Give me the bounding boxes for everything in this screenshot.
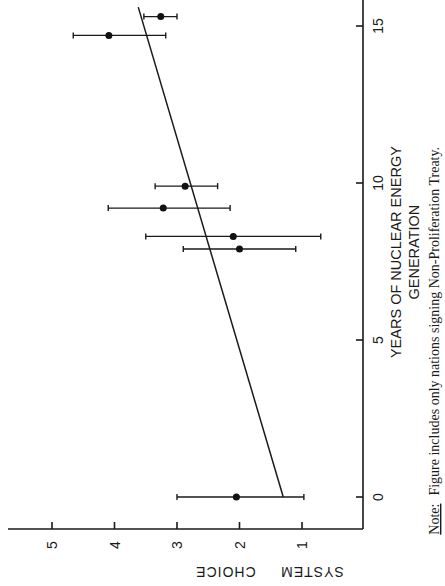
rotated-figure-page: 12345051015 SYSTEM CHOICEYEARS OF NUCLEA… bbox=[0, 0, 445, 586]
regression-line bbox=[138, 7, 283, 497]
data-point bbox=[108, 205, 230, 212]
data-point bbox=[177, 494, 304, 501]
y-tick-label: 5 bbox=[44, 541, 60, 549]
y-tick-label: 4 bbox=[107, 541, 123, 549]
x-tick-label: 5 bbox=[370, 336, 386, 344]
data-point bbox=[183, 245, 296, 252]
trend-line bbox=[138, 7, 283, 497]
note-text: Figure includes only nations signing Non… bbox=[427, 147, 442, 496]
figure-note: Note:Figure includes only nations signin… bbox=[427, 147, 442, 535]
axis-labels: SYSTEM CHOICEYEARS OF NUCLEAR ENERGYGENE… bbox=[195, 146, 442, 580]
point-marker bbox=[182, 183, 189, 190]
point-marker bbox=[157, 13, 164, 20]
note-label: Note: bbox=[427, 504, 442, 535]
data-point bbox=[155, 183, 218, 190]
chart-axes: 12345051015 bbox=[8, 0, 386, 549]
point-marker bbox=[230, 233, 237, 240]
point-marker bbox=[236, 245, 243, 252]
point-marker bbox=[160, 205, 167, 212]
x-axis-label-line1: YEARS OF NUCLEAR ENERGY bbox=[388, 146, 404, 358]
data-point bbox=[73, 32, 166, 39]
y-axis-label: SYSTEM CHOICE bbox=[195, 564, 343, 580]
y-tick-label: 1 bbox=[294, 541, 310, 549]
x-tick-label: 0 bbox=[370, 493, 386, 501]
chart-figure: 12345051015 SYSTEM CHOICEYEARS OF NUCLEA… bbox=[0, 0, 445, 586]
x-tick-label: 10 bbox=[370, 175, 386, 191]
y-tick-label: 3 bbox=[169, 541, 185, 549]
x-tick-label: 15 bbox=[370, 18, 386, 34]
point-marker bbox=[105, 32, 112, 39]
y-tick-label: 2 bbox=[232, 541, 248, 549]
chart-upright-group: 12345051015 SYSTEM CHOICEYEARS OF NUCLEA… bbox=[8, 0, 442, 580]
point-marker bbox=[233, 494, 240, 501]
x-axis-label-line2: GENERATION bbox=[406, 205, 422, 300]
data-point bbox=[146, 233, 321, 240]
data-point bbox=[144, 13, 177, 20]
data-points bbox=[73, 13, 321, 500]
